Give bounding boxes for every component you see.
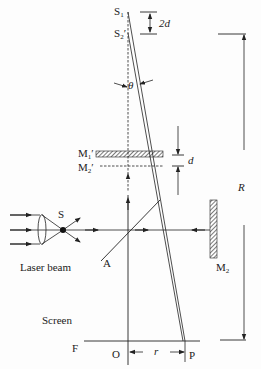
label-r: r xyxy=(154,346,158,357)
label-R: R xyxy=(238,182,245,193)
label-O: O xyxy=(112,349,120,360)
label-d: d xyxy=(188,155,194,166)
label-source-s: S xyxy=(58,209,64,220)
lens xyxy=(38,215,46,245)
mirror-m1-prime xyxy=(96,151,163,157)
ray-from-s1 xyxy=(128,12,185,341)
label-P: P xyxy=(189,350,195,361)
diagram-graphics xyxy=(0,0,261,369)
label-F: F xyxy=(72,343,78,354)
interferometer-diagram: S1 S2′ 2d θ M1′ M2′ d R S Laser beam A M… xyxy=(0,0,261,369)
ray-from-s2 xyxy=(128,33,183,341)
label-m1-prime: M1′ xyxy=(78,148,94,161)
beam-splitter xyxy=(101,200,160,261)
mirror-m2 xyxy=(210,200,217,258)
label-laser-beam: Laser beam xyxy=(20,262,71,273)
label-s1: S1 xyxy=(114,6,124,19)
label-theta: θ xyxy=(128,80,133,91)
label-s2-prime: S2′ xyxy=(114,28,126,41)
label-2d: 2d xyxy=(159,18,170,29)
label-splitter-a: A xyxy=(103,258,111,269)
label-m2-prime: M2′ xyxy=(78,162,94,175)
label-m2: M2 xyxy=(216,262,229,275)
label-screen: Screen xyxy=(42,315,72,326)
